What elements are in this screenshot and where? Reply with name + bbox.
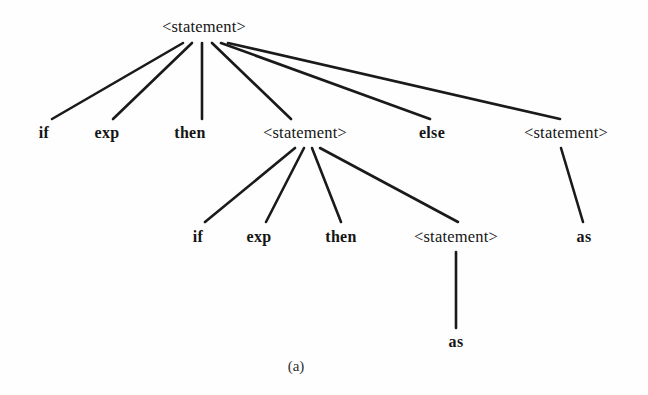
tree-node-n11: as [577, 229, 592, 245]
tree-node-n1: if [39, 125, 49, 141]
tree-node-n7: if [193, 229, 203, 245]
tree-edge-n4-n10 [320, 148, 458, 222]
tree-node-n5: else [419, 125, 445, 141]
tree-node-n9: then [325, 229, 356, 245]
tree-edge-n0-n5 [221, 43, 430, 119]
tree-edge-n4-n9 [312, 148, 341, 222]
figure-caption: (a) [288, 358, 305, 375]
parse-tree-figure: <statement>ifexpthen<statement>else<stat… [0, 0, 648, 395]
tree-node-n10: <statement> [414, 229, 498, 246]
tree-node-n0: <statement> [162, 19, 246, 36]
tree-edge-n4-n8 [266, 148, 304, 222]
tree-edge-n0-n6 [228, 43, 560, 119]
tree-node-n4: <statement> [263, 125, 347, 142]
tree-edge-n4-n7 [205, 148, 295, 222]
tree-node-n2: exp [95, 125, 120, 141]
tree-node-n8: exp [247, 229, 272, 245]
tree-edge-n0-n2 [113, 43, 192, 119]
tree-edge-n0-n1 [52, 43, 183, 119]
tree-node-n3: then [174, 125, 205, 141]
tree-node-n12: as [449, 334, 464, 350]
tree-edge-n6-n11 [561, 148, 583, 222]
tree-edges-layer [0, 0, 648, 395]
tree-node-n6: <statement> [524, 125, 608, 142]
tree-edge-n0-n4 [212, 43, 291, 119]
